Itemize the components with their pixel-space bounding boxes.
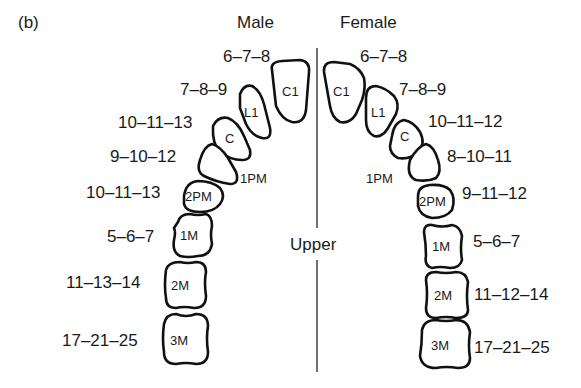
tooth-label: 2PM (419, 194, 446, 209)
male-age-1pm: 9–10–12 (110, 147, 176, 166)
male-tooth-1m: 1M (174, 214, 212, 257)
female-age-c: 10–11–12 (428, 112, 502, 131)
male-tooth-3m: 3M (163, 314, 208, 364)
male-tooth-l1: L1 (240, 86, 270, 139)
male-age-l1: 7–8–9 (180, 80, 227, 99)
tooth-label: 2M (171, 278, 189, 293)
tooth-label: 3M (431, 338, 449, 353)
tooth-label: 1M (180, 228, 198, 243)
female-header: Female (340, 13, 397, 32)
male-arch: C1 L1 C 1PM 2PM 1M 2M (62, 47, 309, 364)
female-tooth-1m: 1M (424, 225, 462, 268)
female-age-1pm: 8–10–11 (447, 147, 512, 166)
female-arch: C1 L1 C 1PM 2PM 1M 2M (324, 47, 550, 368)
male-age-2pm: 10–11–13 (86, 183, 160, 202)
female-age-2pm: 9–11–12 (462, 184, 527, 203)
tooth-label: C (225, 131, 234, 146)
tooth-label: C (400, 129, 409, 144)
female-tooth-c1: C1 (324, 62, 365, 122)
female-age-3m: 17–21–25 (474, 338, 550, 357)
male-age-3m: 17–21–25 (62, 331, 138, 350)
tooth-eruption-diagram: (b) Male Female Upper C1 L1 C 1PM 2PM (0, 0, 581, 388)
male-age-2m: 11–13–14 (66, 273, 140, 292)
male-header: Male (237, 13, 274, 32)
tooth-label: 3M (170, 333, 188, 348)
female-tooth-3m: 3M (420, 320, 470, 368)
female-age-l1: 7–8–9 (399, 80, 446, 99)
tooth-label: 1PM (366, 171, 393, 186)
male-age-c1: 6–7–8 (223, 47, 270, 66)
tooth-label: 1PM (240, 171, 267, 186)
tooth-label: C1 (282, 84, 299, 99)
female-age-1m: 5–6–7 (473, 232, 520, 251)
tooth-label: 2PM (185, 189, 212, 204)
male-tooth-c1: C1 (272, 60, 309, 122)
male-age-1m: 5–6–7 (107, 227, 154, 246)
female-tooth-2pm: 2PM (418, 185, 454, 218)
tooth-label: L1 (371, 105, 385, 120)
upper-jaw-label: Upper (290, 235, 337, 254)
male-tooth-2m: 2M (165, 262, 206, 308)
panel-label: (b) (18, 13, 39, 32)
tooth-label: 1M (432, 239, 450, 254)
female-tooth-2m: 2M (426, 272, 468, 318)
male-age-c: 10–11–13 (118, 113, 192, 132)
tooth-label: C1 (333, 84, 350, 99)
male-tooth-2pm: 2PM (184, 181, 223, 212)
female-age-c1: 6–7–8 (360, 47, 407, 66)
tooth-label: L1 (244, 105, 258, 120)
tooth-label: 2M (434, 288, 452, 303)
female-age-2m: 11–12–14 (474, 285, 548, 304)
